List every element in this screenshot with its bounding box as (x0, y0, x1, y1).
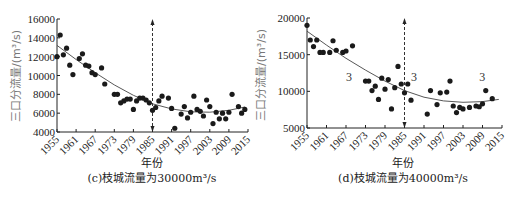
x-axis-label-d: 年份 (392, 156, 414, 170)
arrow-up-icon (403, 18, 407, 24)
x-tick-label: 2009 (463, 129, 487, 153)
data-point (147, 100, 152, 105)
y-axis-label-d: 三口分流量/(m³/s) (254, 29, 268, 121)
data-point (467, 105, 472, 110)
x-tick-label: 1961 (56, 133, 80, 157)
data-point (191, 94, 196, 99)
data-point (159, 94, 164, 99)
data-point (217, 116, 222, 121)
x-tick-label: 2015 (482, 129, 506, 153)
x-tick-label: 2003 (190, 133, 214, 157)
data-point (77, 56, 82, 61)
data-point (334, 48, 339, 53)
data-point (80, 51, 85, 56)
data-point (330, 38, 335, 43)
data-point (86, 63, 91, 68)
y-tick-label: 10000 (28, 70, 56, 82)
data-point (428, 88, 433, 93)
data-point (214, 110, 219, 115)
data-point (395, 64, 400, 69)
data-point (399, 81, 404, 86)
data-point (444, 89, 449, 94)
data-point (153, 105, 158, 110)
data-point (179, 112, 184, 117)
data-point (201, 113, 206, 118)
data-point (102, 81, 107, 86)
data-point (350, 43, 355, 48)
y-tick-label: 12000 (28, 51, 56, 63)
x-tick-label: 1979 (114, 133, 138, 157)
x-tick-label: 1967 (326, 129, 350, 153)
x-axis-label-c: 年份 (141, 156, 163, 170)
data-point (182, 104, 187, 109)
arrow-up-icon (151, 19, 155, 25)
data-point (343, 48, 348, 53)
x-tick-label: 2015 (228, 133, 252, 157)
data-point (392, 85, 397, 90)
x-tick-label: 1979 (365, 129, 389, 153)
data-point (321, 50, 326, 55)
annotation: 3 (346, 70, 352, 84)
data-point (128, 96, 133, 101)
data-point (425, 111, 430, 116)
data-point (389, 106, 394, 111)
data-point (402, 90, 407, 95)
data-point (229, 92, 234, 97)
data-point (93, 72, 98, 77)
data-point (242, 107, 247, 112)
data-point (131, 107, 136, 112)
y-tick-label: 14000 (28, 32, 56, 44)
y-tick-label: 10000 (278, 85, 306, 97)
x-tick-label: 1973 (346, 129, 370, 153)
data-point (386, 77, 391, 82)
x-tick-label: 1961 (307, 129, 331, 153)
data-point (220, 111, 225, 116)
y-tick-label: 16000 (28, 13, 56, 25)
data-point (166, 96, 171, 101)
data-point (490, 96, 495, 101)
data-point (67, 63, 72, 68)
data-point (115, 92, 120, 97)
data-point (454, 110, 459, 115)
data-point (408, 98, 413, 103)
y-tick-label: 20000 (278, 12, 306, 24)
caption-d: (d)枝城流量为40000m³/s (338, 171, 468, 185)
data-point (61, 52, 66, 57)
data-point (226, 110, 231, 115)
data-point (172, 126, 177, 131)
x-tick-label: 1991 (404, 129, 428, 153)
data-point (369, 88, 374, 93)
data-point (198, 109, 203, 114)
data-point (460, 106, 465, 111)
x-tick-label: 1991 (152, 133, 176, 157)
data-point (236, 104, 241, 109)
chart-panel-c: 4000600080001000012000140001600019551961… (28, 13, 253, 157)
data-point (438, 90, 443, 95)
data-point (376, 97, 381, 102)
arrow-down-icon (403, 122, 407, 128)
x-tick-label: 2003 (443, 129, 467, 153)
annotation: 3 (479, 70, 485, 84)
data-point (373, 84, 378, 89)
x-tick-label: 1985 (385, 129, 409, 153)
x-tick-label: 2009 (209, 133, 233, 157)
data-point (156, 98, 161, 103)
data-point (451, 103, 456, 108)
data-point (434, 102, 439, 107)
x-tick-label: 1967 (76, 133, 100, 157)
chart-panel-d: 5000100001500020000195519611967197319791… (278, 12, 507, 153)
data-point (304, 23, 309, 28)
x-tick-label: 1985 (133, 133, 157, 157)
data-point (54, 54, 59, 59)
data-point (70, 72, 75, 77)
data-point (64, 46, 69, 51)
data-point (185, 115, 190, 120)
arrow-down-icon (151, 126, 155, 132)
data-point (169, 106, 174, 111)
data-point (188, 110, 193, 115)
caption-c: (c)枝城流量为30000m³/s (88, 171, 217, 185)
data-point (366, 78, 371, 83)
data-point (480, 101, 485, 106)
data-point (207, 104, 212, 109)
figure: 4000600080001000012000140001600019551961… (0, 0, 514, 201)
